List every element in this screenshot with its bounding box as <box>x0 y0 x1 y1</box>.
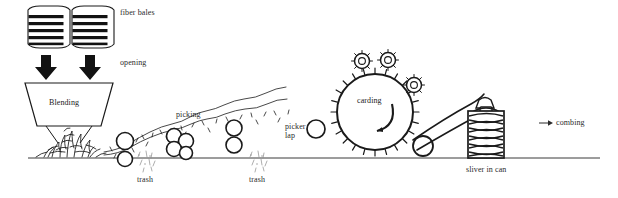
label-sliver-in-can: sliver in can <box>466 165 506 174</box>
fiber-bale-left <box>28 6 70 48</box>
label-carding: carding <box>357 96 382 105</box>
label-trash-left: trash <box>137 175 153 184</box>
picking-roller-3 <box>226 120 242 153</box>
opening-arrow-left <box>35 55 57 80</box>
blending-hopper <box>25 83 113 143</box>
label-fiber-bales: fiber bales <box>120 8 155 17</box>
picking-roller-cluster <box>167 129 194 160</box>
carding-flat-roller-2 <box>378 50 399 71</box>
label-trash-right: trash <box>249 175 265 184</box>
label-picker-lap-line2: lap <box>285 131 295 140</box>
trash-specks-left <box>138 151 155 172</box>
fiber-tuft-pile <box>36 128 106 157</box>
label-picking: picking <box>176 110 201 119</box>
diagram-canvas <box>0 0 618 198</box>
fiber-processing-diagram: fiber bales opening Blending picking tra… <box>0 0 618 198</box>
carding-cylinder <box>331 68 419 156</box>
sliver-can <box>468 111 504 158</box>
picker-lap-roller <box>307 120 325 138</box>
label-picker-lap-line1: picker <box>285 122 306 131</box>
picking-roller-1 <box>117 133 134 167</box>
carding-flat-roller-3 <box>404 75 425 96</box>
label-combing: combing <box>556 118 585 127</box>
label-opening: opening <box>120 58 146 67</box>
label-blending: Blending <box>49 98 79 107</box>
carding-flat-roller-1 <box>352 51 373 72</box>
fiber-bale-right <box>72 6 114 48</box>
opening-arrow-right <box>79 55 101 80</box>
trash-specks-right <box>250 151 267 172</box>
combing-arrow-icon <box>539 120 553 126</box>
coiler-head <box>472 98 500 113</box>
